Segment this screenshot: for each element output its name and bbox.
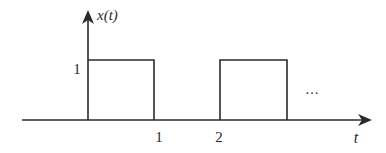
x-tick-label-1: 1	[155, 129, 163, 145]
pulse-train-diagram: x(t) 1 1 2 t …	[0, 0, 386, 153]
continuation-ellipsis: …	[305, 82, 319, 97]
y-axis-label: x(t)	[96, 7, 118, 24]
y-tick-label-1: 1	[73, 61, 81, 77]
pulse-2	[220, 60, 287, 120]
pulse-1	[88, 60, 154, 120]
x-tick-label-2: 2	[215, 129, 223, 145]
x-axis-label: t	[354, 129, 359, 146]
